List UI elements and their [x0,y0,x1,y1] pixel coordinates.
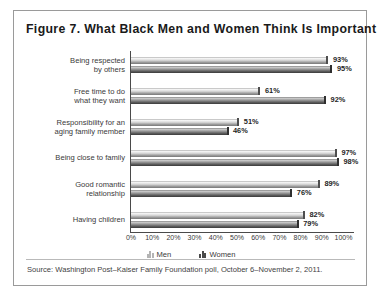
bar-value-men: 97% [341,148,356,157]
chart-category-group: Being respected by others 93% 95% [26,53,356,81]
bar-fill-women [131,221,299,228]
bar-fill-women [131,97,326,104]
x-tick-label: 60% [251,234,265,241]
bar-men[interactable]: 89% [131,181,320,187]
category-label-line: Being respected [70,56,125,65]
bar-value-women: 92% [331,95,346,104]
bar-men[interactable]: 82% [131,212,305,218]
source-note: Source: Washington Post–Kaiser Family Fo… [27,265,322,274]
figure-title: Figure 7. What Black Men and Women Think… [26,22,376,36]
bar-value-men: 61% [265,86,280,95]
x-axis-tick-labels: 0% 10% 20% 30% 40% 50% 60% 70% 80% 90% 1… [26,234,356,246]
bar-fill-men [131,212,305,219]
bar-cap [324,96,326,104]
chart-category-group: Being close to family 97% 98% [26,146,356,174]
bar-fill-men [131,181,320,188]
bar-fill-men [131,88,260,95]
legend-item-women[interactable]: Women [199,250,235,259]
bar-fill-women [131,159,339,166]
category-label-line: relationship [86,189,125,198]
bar-men[interactable]: 97% [131,150,337,156]
chart-plot-area: Being respected by others 93% 95% Free t… [26,51,356,241]
bar-cap [318,180,320,188]
legend-swatch-men-icon [147,251,154,258]
bar-women[interactable]: 95% [131,66,332,72]
category-label: Having children [26,215,125,224]
legend-item-men[interactable]: Men [147,250,172,259]
bar-women[interactable]: 46% [131,128,229,134]
chart-category-group: Free time to do what they want 61% 92% [26,84,356,112]
x-tick-label: 30% [188,234,202,241]
category-label: Good romantic relationship [26,180,125,199]
chart-legend: Men Women [26,250,356,259]
figure-frame: Figure 7. What Black Men and Women Think… [13,10,367,286]
bar-fill-women [131,66,332,73]
bar-fill-men [131,57,328,64]
x-tick-label: 90% [315,234,329,241]
legend-label-men: Men [157,250,172,259]
bar-cap [335,149,337,157]
category-label-line: Having children [73,215,125,224]
category-label-line: by others [94,65,125,74]
bar-fill-men [131,150,337,157]
bar-value-women: 98% [344,157,359,166]
bar-cap [337,158,339,166]
bar-cap [258,87,260,95]
bar-men[interactable]: 93% [131,57,328,63]
bar-value-men: 93% [333,55,348,64]
bar-value-women: 95% [337,64,352,73]
bar-women[interactable]: 79% [131,221,299,227]
chart-category-group: Good romantic relationship 89% 76% [26,177,356,205]
category-label-line: what they want [74,96,125,105]
bar-women[interactable]: 98% [131,159,339,165]
bar-value-men: 89% [324,179,339,188]
category-label: Being respected by others [26,56,125,75]
bar-fill-men [131,119,239,126]
x-tick-label: 70% [272,234,286,241]
bar-cap [330,65,332,73]
legend-swatch-women-icon [199,251,206,258]
legend-label-women: Women [209,250,235,259]
bar-cap [326,56,328,64]
x-tick-label: 20% [166,234,180,241]
bar-value-men: 82% [310,210,325,219]
category-label-line: aging family member [55,127,125,136]
category-label-line: Good romantic [75,180,125,189]
source-divider [26,259,355,260]
bar-women[interactable]: 92% [131,97,326,103]
category-label-line: Responsibility for an [57,118,125,127]
bar-fill-women [131,190,292,197]
bar-value-men: 51% [244,117,259,126]
bar-cap [237,118,239,126]
bar-men[interactable]: 61% [131,88,260,94]
x-tick-label: 10% [145,234,159,241]
category-label: Free time to do what they want [26,87,125,106]
chart-category-group: Having children 82% 79% [26,208,356,236]
chart-category-group: Responsibility for an aging family membe… [26,115,356,143]
bar-women[interactable]: 76% [131,190,292,196]
category-label-line: Being close to family [55,153,125,162]
bar-cap [303,211,305,219]
category-label: Responsibility for an aging family membe… [26,118,125,137]
bar-value-women: 79% [303,219,318,228]
bar-value-women: 46% [233,126,248,135]
x-tick-label: 80% [294,234,308,241]
bar-fill-women [131,128,229,135]
category-label-line: Free time to do [74,87,125,96]
bar-cap [290,189,292,197]
x-tick-label: 0% [126,234,136,241]
category-label: Being close to family [26,153,125,162]
bar-men[interactable]: 51% [131,119,239,125]
x-tick-label: 40% [209,234,223,241]
bar-value-women: 76% [297,188,312,197]
bar-cap [227,127,229,135]
x-tick-label: 50% [230,234,244,241]
bar-cap [297,220,299,228]
x-tick-label: 100% [335,234,353,241]
